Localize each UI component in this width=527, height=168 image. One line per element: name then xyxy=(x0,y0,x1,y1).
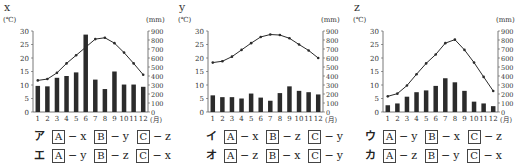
precipitation-bar xyxy=(112,72,117,113)
month-label: 9 xyxy=(287,115,291,123)
x-axis-unit: (月) xyxy=(325,116,338,124)
chart-letter: y xyxy=(411,130,417,143)
left-tick-label: 0 xyxy=(200,109,204,117)
boxed-letter: B xyxy=(266,130,279,144)
precipitation-bar xyxy=(433,86,438,112)
option-e[interactable]: エA−yB−zC−x xyxy=(34,147,179,165)
month-label: 8 xyxy=(453,115,457,123)
temperature-line xyxy=(388,40,493,97)
option-pair: C−z xyxy=(137,128,171,146)
temperature-point xyxy=(396,92,399,95)
right-axis-unit: (mm) xyxy=(321,16,340,24)
left-tick-label: 15 xyxy=(20,68,29,76)
left-tick-label: 15 xyxy=(370,68,379,76)
precipitation-bar xyxy=(481,103,486,112)
precipitation-bar xyxy=(220,97,225,112)
chart-letter: z xyxy=(252,149,258,162)
month-label: 4 xyxy=(239,115,244,123)
option-pair: C−y xyxy=(308,147,342,165)
option-pair: A−y xyxy=(52,147,86,165)
boxed-letter: A xyxy=(383,130,396,144)
right-tick-label: 200 xyxy=(501,91,513,99)
left-tick-label: 10 xyxy=(195,82,204,90)
chart-letter: x xyxy=(252,130,258,143)
option-u[interactable]: ウA−yB−xC−z xyxy=(365,128,510,146)
boxed-letter: B xyxy=(425,130,438,144)
temperature-point xyxy=(307,49,310,52)
boxed-letter: C xyxy=(136,149,149,163)
precipitation-bar xyxy=(414,92,419,112)
boxed-letter: B xyxy=(94,130,107,144)
temperature-point xyxy=(94,38,97,41)
precipitation-bar xyxy=(64,76,69,112)
temperature-point xyxy=(221,60,224,63)
month-label: 7 xyxy=(443,115,447,123)
temperature-point xyxy=(492,90,495,93)
month-label: 5 xyxy=(74,115,78,123)
chart-letter: x xyxy=(496,149,502,162)
precipitation-bar xyxy=(306,92,311,112)
month-label: 4 xyxy=(64,115,69,123)
right-tick-label: 900 xyxy=(501,28,513,36)
option-i[interactable]: イA−xB−zC−y xyxy=(206,128,351,146)
right-tick-label: 500 xyxy=(326,64,338,72)
right-tick-label: 300 xyxy=(501,82,513,90)
month-label: 8 xyxy=(103,115,107,123)
precipitation-bar xyxy=(297,91,302,112)
option-label: エ xyxy=(34,147,52,165)
temperature-point xyxy=(406,84,409,87)
temperature-point xyxy=(463,49,466,52)
chart-letter: z xyxy=(496,130,502,143)
chart-letter: y xyxy=(453,149,459,162)
right-tick-label: 500 xyxy=(151,64,163,72)
left-tick-label: 30 xyxy=(370,28,379,36)
right-tick-label: 300 xyxy=(151,82,163,90)
precipitation-bar xyxy=(239,99,244,113)
precipitation-bar xyxy=(141,87,146,112)
option-pair: A−z xyxy=(383,147,417,165)
temperature-point xyxy=(454,38,457,41)
x-axis-unit: (月) xyxy=(500,116,513,124)
month-label: 7 xyxy=(93,115,97,123)
left-tick-label: 10 xyxy=(370,82,379,90)
option-a[interactable]: アA−xB−yC−z xyxy=(34,128,179,146)
left-axis-unit: (℃) xyxy=(3,16,17,24)
month-label: 5 xyxy=(249,115,253,123)
temperature-point xyxy=(298,43,301,46)
climate-chart-x: x(℃)(mm)05101520253001002003004005006007… xyxy=(0,0,175,126)
answer-options: アA−xB−yC−z イA−xB−zC−y ウA−yB−xC−z エA−yB−z… xyxy=(0,128,527,168)
right-tick-label: 400 xyxy=(501,73,513,81)
boxed-letter: A xyxy=(224,130,237,144)
boxed-letter: C xyxy=(467,149,480,163)
temperature-point xyxy=(132,62,135,65)
chart-letter: z xyxy=(411,149,417,162)
temperature-line xyxy=(38,38,143,81)
left-tick-label: 5 xyxy=(200,95,204,103)
option-o[interactable]: オA−zB−xC−y xyxy=(206,147,351,165)
temperature-point xyxy=(269,33,272,36)
month-label: 6 xyxy=(83,115,88,123)
chart-letter: y xyxy=(337,130,343,143)
month-label: 10 xyxy=(120,115,129,123)
temperature-point xyxy=(415,73,418,76)
month-label: 9 xyxy=(462,115,466,123)
boxed-letter: C xyxy=(137,130,150,144)
month-label: 2 xyxy=(220,115,224,123)
month-label: 11 xyxy=(479,115,488,123)
right-tick-label: 600 xyxy=(501,55,513,63)
month-label: 12 xyxy=(314,115,323,123)
precipitation-bar xyxy=(55,78,60,112)
temperature-point xyxy=(444,42,447,45)
left-tick-label: 25 xyxy=(195,41,204,49)
option-ka[interactable]: カA−zB−yC−x xyxy=(365,147,510,165)
chart-letter: z xyxy=(165,130,171,143)
option-pair: A−z xyxy=(224,147,258,165)
month-label: 3 xyxy=(55,115,59,123)
precipitation-bar xyxy=(424,90,429,112)
precipitation-bar xyxy=(74,72,79,112)
precipitation-bar xyxy=(230,97,235,112)
option-label: ア xyxy=(34,128,52,146)
chart-letter: x xyxy=(165,149,171,162)
boxed-letter: C xyxy=(308,130,321,144)
option-pair: B−z xyxy=(94,147,128,165)
